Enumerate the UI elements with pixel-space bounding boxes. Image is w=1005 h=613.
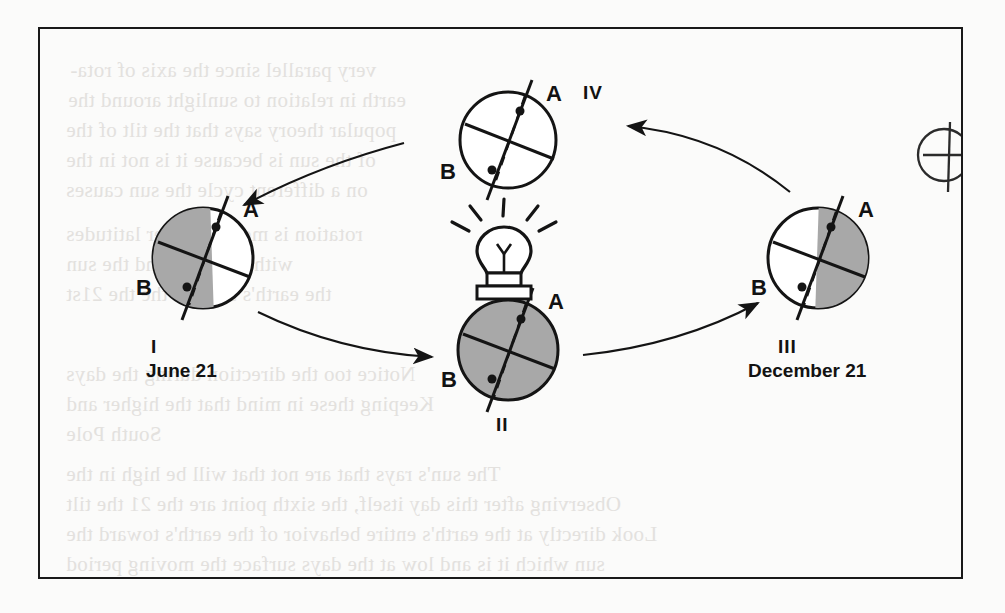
earth-IV-point-a-dot: [516, 107, 525, 116]
earth-II-label-a: A: [548, 289, 564, 315]
earth-III-label-a: A: [858, 197, 874, 223]
earth-II-label-b: B: [441, 367, 457, 393]
earth-IV-label-a: A: [546, 81, 562, 107]
orbit-arrow-I-to-II: [258, 312, 432, 357]
earth-I-label-b: B: [136, 275, 152, 301]
earth-I-date: June 21: [146, 360, 217, 382]
earth-I-label-a: A: [243, 197, 259, 223]
earth-I-point-b-dot: [183, 283, 192, 292]
earth-III-point-a-dot: [827, 223, 836, 232]
earth-II-roman: II: [496, 414, 509, 436]
earth-position-II: [458, 288, 558, 412]
light-bulb-base: [477, 286, 531, 299]
earth-I-point-a-dot: [212, 223, 221, 232]
earth-I-roman: I: [151, 336, 157, 358]
earth-III-point-b-dot: [798, 283, 807, 292]
earth-III-label-b: B: [751, 275, 767, 301]
earth-position-IV: [460, 80, 556, 200]
orbit-arrow-IV-to-I: [244, 143, 404, 205]
earth-IV-label-b: B: [440, 159, 456, 185]
light-bulb-neck: [487, 273, 521, 286]
earth-position-I: [145, 196, 253, 320]
earth-position-V-cropped: [918, 122, 970, 192]
light-bulb-icon: [452, 199, 556, 299]
earth-IV-point-b-dot: [488, 166, 497, 175]
earth-II-point-b-dot: [488, 375, 497, 384]
earth-III-date: December 21: [748, 360, 866, 382]
scanned-page: very parallel since the axis of rota- ea…: [0, 0, 1005, 613]
earth-II-point-a-dot: [517, 315, 526, 324]
earth-III-roman: III: [778, 336, 797, 358]
orbit-arrow-III-to-IV: [628, 126, 790, 192]
orbit-arrow-II-to-III: [583, 303, 758, 355]
earth-IV-roman: IV: [583, 82, 603, 104]
orbit-diagram-svg: [0, 0, 1005, 613]
